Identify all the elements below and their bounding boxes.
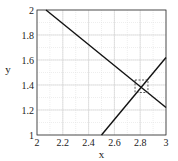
- chart: 22.22.42.62.8311.21.41.61.82xy: [0, 0, 178, 161]
- x-tick-label: 2: [35, 137, 40, 148]
- y-axis-label: y: [5, 63, 11, 75]
- x-tick-label: 2.4: [82, 137, 95, 148]
- series-line-2: [102, 58, 167, 136]
- x-tick-label: 3: [164, 137, 169, 148]
- y-tick-label: 1.4: [22, 80, 35, 91]
- y-tick-label: 1.2: [22, 105, 35, 116]
- x-tick-label: 2.6: [108, 137, 121, 148]
- y-tick-label: 2: [29, 5, 34, 16]
- x-tick-label: 2.8: [134, 137, 147, 148]
- x-axis-label: x: [99, 148, 105, 160]
- x-tick-label: 2.2: [57, 137, 70, 148]
- y-tick-label: 1.6: [22, 55, 35, 66]
- y-tick-label: 1: [29, 130, 34, 141]
- y-tick-label: 1.8: [22, 30, 35, 41]
